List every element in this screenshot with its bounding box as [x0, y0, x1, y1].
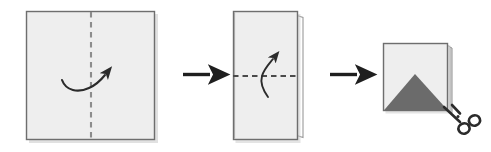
scissors-ring-right [467, 114, 481, 128]
scissors-blade-lower [452, 105, 460, 114]
diagram-canvas [0, 0, 491, 152]
step-3-group [384, 44, 482, 136]
step-2-group [233, 12, 303, 144]
scissors-pivot [457, 115, 460, 118]
step-1-group [27, 12, 159, 144]
paper-folding-diagram: Three-step diagram: fold a square sheet … [0, 0, 491, 152]
